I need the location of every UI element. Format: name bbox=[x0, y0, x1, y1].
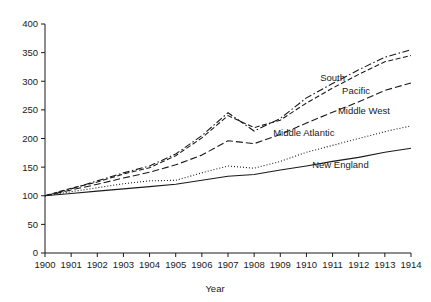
y-tick-label: 400 bbox=[22, 18, 38, 29]
series-label-pacific: Pacific bbox=[342, 85, 370, 96]
x-tick-label: 1910 bbox=[296, 259, 317, 270]
y-tick-label: 250 bbox=[22, 104, 38, 115]
series-label-middle-west: Middle West bbox=[338, 105, 390, 116]
x-tick-label: 1909 bbox=[270, 259, 291, 270]
x-tick-label: 1903 bbox=[113, 259, 134, 270]
x-tick-label: 1902 bbox=[87, 259, 108, 270]
y-tick-label: 300 bbox=[22, 76, 38, 87]
line-chart: 050100150200250300350400 190019011902190… bbox=[0, 0, 431, 302]
y-tick-label: 0 bbox=[33, 247, 38, 258]
y-tick-label: 150 bbox=[22, 162, 38, 173]
x-axis-title: Year bbox=[205, 283, 224, 294]
x-tick-label: 1900 bbox=[34, 259, 55, 270]
x-tick-label: 1913 bbox=[374, 259, 395, 270]
x-tick-label: 1901 bbox=[61, 259, 82, 270]
x-axis: 1900190119021903190419051906190719081909… bbox=[34, 253, 421, 270]
y-tick-label: 50 bbox=[27, 219, 38, 230]
y-axis: 050100150200250300350400 bbox=[22, 18, 45, 258]
series-label-south: South bbox=[320, 72, 345, 83]
y-tick-label: 200 bbox=[22, 133, 38, 144]
series-line-new-england bbox=[45, 148, 411, 196]
x-tick-label: 1911 bbox=[322, 259, 342, 270]
y-tick-label: 350 bbox=[22, 47, 38, 58]
series-label-middle-atlantic: Middle Atlantic bbox=[273, 127, 335, 138]
y-tick-label: 100 bbox=[22, 190, 38, 201]
x-tick-label: 1904 bbox=[139, 259, 160, 270]
x-tick-label: 1905 bbox=[165, 259, 186, 270]
series-label-new-england: New England bbox=[312, 159, 369, 170]
series-labels: SouthPacificMiddle WestMiddle AtlanticNe… bbox=[273, 72, 390, 170]
x-tick-label: 1912 bbox=[348, 259, 369, 270]
x-tick-label: 1914 bbox=[400, 259, 421, 270]
chart-canvas: 050100150200250300350400 190019011902190… bbox=[0, 0, 431, 302]
x-tick-label: 1907 bbox=[217, 259, 238, 270]
series-line-pacific bbox=[45, 55, 411, 195]
series-line-south bbox=[45, 50, 411, 196]
series-lines bbox=[45, 50, 411, 196]
x-tick-label: 1908 bbox=[244, 259, 265, 270]
x-tick-label: 1906 bbox=[191, 259, 212, 270]
